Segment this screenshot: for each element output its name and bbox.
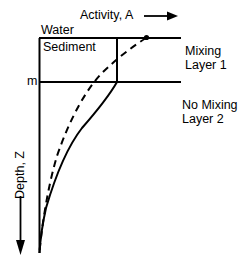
no-mixing-layer-label-line1: No Mixing	[182, 98, 238, 112]
dashed-curve-endpoint-dot	[144, 35, 149, 40]
dashed-activity-profile-curve	[40, 38, 147, 252]
y-axis-label: Depth, Z	[13, 144, 27, 206]
diagram-canvas	[0, 0, 248, 265]
activity-axis-arrow-icon	[144, 12, 178, 21]
water-region-label: Water	[41, 23, 74, 37]
sediment-activity-diagram: Activity, A Water Sediment m Mixing Laye…	[0, 0, 248, 265]
mixing-layer-label-line2: Layer 1	[185, 58, 227, 72]
mixing-depth-tick-label: m	[27, 74, 37, 88]
x-axis-label: Activity, A	[80, 8, 133, 22]
sediment-region-label: Sediment	[43, 40, 96, 54]
mixing-layer-label-line1: Mixing	[185, 44, 221, 58]
no-mixing-layer-label-line2: Layer 2	[182, 112, 224, 126]
